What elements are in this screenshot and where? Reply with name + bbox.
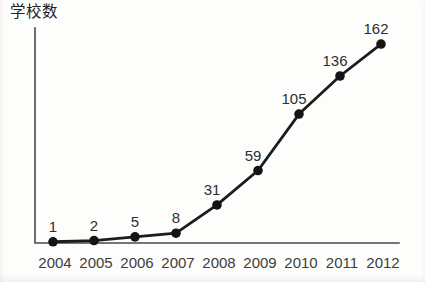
value-label: 59 <box>245 147 262 164</box>
line-chart: 学校数 12583159105136162 200420052006200720… <box>0 0 425 282</box>
data-point <box>89 236 99 246</box>
data-point <box>335 71 345 81</box>
x-tick-label: 2009 <box>243 254 276 271</box>
value-label: 31 <box>204 181 221 198</box>
value-label: 162 <box>363 20 388 37</box>
x-tick-label: 2005 <box>79 254 112 271</box>
x-tick-label: 2010 <box>284 254 317 271</box>
x-tick-label: 2006 <box>120 254 153 271</box>
value-label: 105 <box>281 90 306 107</box>
value-label: 136 <box>322 52 347 69</box>
value-label: 5 <box>131 213 139 230</box>
data-point <box>376 39 386 49</box>
data-point <box>48 237 58 247</box>
series-line <box>53 44 381 242</box>
y-axis-title: 学校数 <box>10 3 58 20</box>
value-label: 2 <box>90 217 98 234</box>
value-label: 1 <box>49 218 57 235</box>
data-point <box>171 228 181 238</box>
x-tick-label: 2012 <box>366 254 399 271</box>
x-axis-tick-labels: 200420052006200720082009201020112012 <box>38 254 399 271</box>
x-tick-label: 2004 <box>38 254 71 271</box>
data-point <box>130 232 140 242</box>
x-tick-label: 2011 <box>326 254 358 271</box>
data-point <box>253 166 263 176</box>
x-tick-label: 2008 <box>202 254 235 271</box>
data-point <box>294 109 304 119</box>
chart-page: 学校数 12583159105136162 200420052006200720… <box>0 0 425 282</box>
x-tick-label: 2007 <box>161 254 194 271</box>
series-layer <box>48 39 386 246</box>
value-label: 8 <box>172 209 180 226</box>
data-point <box>212 200 222 210</box>
